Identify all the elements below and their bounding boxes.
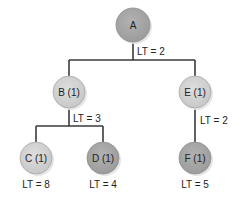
- lt-label-b: LT = 3: [73, 113, 101, 124]
- node-b: B (1): [53, 76, 85, 108]
- node-d-label: D (1): [92, 153, 114, 164]
- node-c-label: C (1): [25, 153, 47, 164]
- node-a-label: A: [130, 20, 137, 31]
- lt-label-e: LT = 2: [200, 115, 228, 126]
- lt-label-d: LT = 4: [89, 179, 117, 190]
- lt-label-c: LT = 8: [22, 179, 50, 190]
- tree-diagram: A LT = 2 B (1) LT = 3 E (1) LT = 2 C (1)…: [0, 0, 238, 205]
- node-f-label: F (1): [184, 153, 205, 164]
- node-b-label: B (1): [58, 87, 80, 98]
- lt-label-f: LT = 5: [181, 179, 209, 190]
- node-e: E (1): [179, 76, 211, 108]
- node-a: A: [116, 8, 150, 42]
- node-e-label: E (1): [184, 87, 206, 98]
- node-c: C (1): [20, 142, 52, 174]
- node-d: D (1): [87, 142, 119, 174]
- node-f: F (1): [179, 142, 211, 174]
- lt-label-a: LT = 2: [137, 46, 165, 57]
